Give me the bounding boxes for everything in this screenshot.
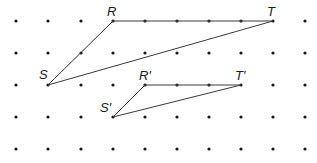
grid-dot [46,115,49,118]
grid-dot [239,51,242,54]
dot-grid-diagram: R T S R′ T′ S′ [0,0,317,163]
vertex-label-s: S [39,67,48,82]
triangle-r-prime-s-prime-t-prime: R′ T′ S′ [100,68,246,117]
grid-dot [79,147,82,150]
grid-dot [207,115,210,118]
grid-dot [175,115,178,118]
grid-dot [207,51,210,54]
grid-dot [239,115,242,118]
grid-dot [14,51,17,54]
grid-dot [239,147,242,150]
grid-dot [143,51,146,54]
vertex-label-r: R [107,4,116,19]
vertex-label-t: T [267,4,276,19]
vertex-label-t-prime: T′ [235,68,246,83]
grid-dot [79,83,82,86]
grid-dot [175,147,178,150]
grid-dot [175,51,178,54]
grid-dot [79,115,82,118]
vertex-label-r-prime: R′ [139,68,151,83]
triangle-rst-prime-outline [113,85,241,117]
grid-dot [303,147,306,150]
grid-dot [46,51,49,54]
grid-dot [303,51,306,54]
grid-dot [303,19,306,22]
grid-dot [271,51,274,54]
grid-dot [143,147,146,150]
grid-dot [14,19,17,22]
grid-dot [207,147,210,150]
grid-dot [111,51,114,54]
grid-dot [271,83,274,86]
grid-dot [111,83,114,86]
grid-dot [46,19,49,22]
grid-dot [271,115,274,118]
grid-dot [303,115,306,118]
grid-dot [303,83,306,86]
grid-dot [46,147,49,150]
vertex-label-s-prime: S′ [100,100,112,115]
grid-dot [111,147,114,150]
grid-dot [143,115,146,118]
grid-dot [271,147,274,150]
grid-dot [14,115,17,118]
grid-dot [79,19,82,22]
grid-dot [14,83,17,86]
grid-dot [14,147,17,150]
